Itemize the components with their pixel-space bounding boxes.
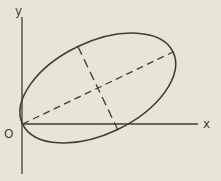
x-axis-label: x (203, 117, 210, 131)
y-axis-label: y (15, 4, 22, 18)
paper-background (0, 0, 221, 181)
ellipse-diagram: y x O (0, 0, 221, 181)
diagram-page: y x O (0, 0, 221, 181)
origin-label: O (4, 127, 13, 141)
